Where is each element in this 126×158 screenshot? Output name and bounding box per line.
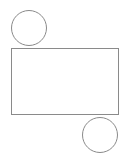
canvas-background [0,0,126,158]
shapes-svg [0,0,126,158]
figure-canvas [0,0,126,158]
